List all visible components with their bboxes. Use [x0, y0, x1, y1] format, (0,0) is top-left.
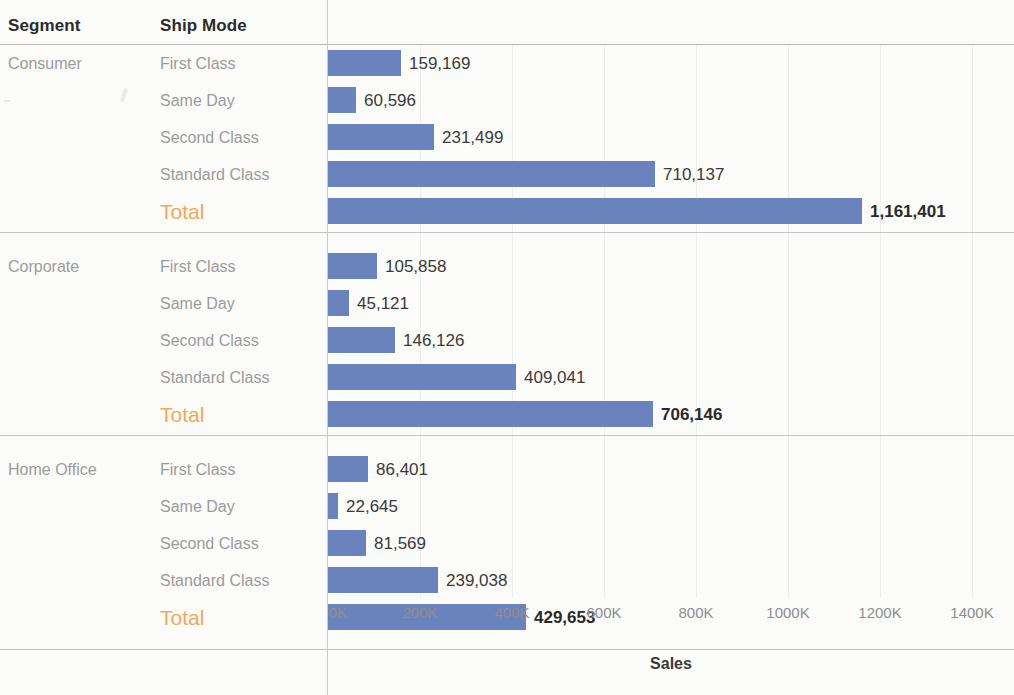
bar[interactable]: [328, 567, 438, 593]
bar[interactable]: [328, 161, 655, 187]
segment-divider: [0, 435, 1014, 436]
ship-mode-label[interactable]: Standard Class: [160, 562, 320, 599]
bar-value-label: 239,038: [446, 562, 507, 599]
scan-artifact: [4, 100, 11, 102]
column-header-segment: Segment: [8, 16, 148, 42]
chart-row[interactable]: Standard Class409,041: [0, 359, 1014, 396]
bar[interactable]: [328, 124, 434, 150]
segment-label[interactable]: Consumer: [8, 45, 148, 82]
segment-divider: [0, 649, 1014, 650]
ship-mode-label[interactable]: Same Day: [160, 285, 320, 322]
bar[interactable]: [328, 327, 395, 353]
bar[interactable]: [328, 253, 377, 279]
x-axis-tick-label: 200K: [402, 604, 437, 621]
bar-value-label: 81,569: [374, 525, 426, 562]
x-axis-ticks: 0K200K400K600K800K1000K1200K1400K: [328, 604, 1014, 628]
column-header-ship-mode: Ship Mode: [160, 16, 320, 42]
chart-row[interactable]: Total706,146: [0, 396, 1014, 433]
chart-row[interactable]: Home OfficeFirst Class86,401: [0, 451, 1014, 488]
x-axis-tick-label: 1200K: [858, 604, 901, 621]
ship-mode-label[interactable]: Standard Class: [160, 359, 320, 396]
total-row-label[interactable]: Total: [160, 193, 320, 230]
ship-mode-label[interactable]: First Class: [160, 451, 320, 488]
total-row-label[interactable]: Total: [160, 396, 320, 433]
chart-row[interactable]: Standard Class710,137: [0, 156, 1014, 193]
ship-mode-label[interactable]: Same Day: [160, 82, 320, 119]
bar-value-label: 409,041: [524, 359, 585, 396]
ship-mode-label[interactable]: Same Day: [160, 488, 320, 525]
bar-value-label: 105,858: [385, 248, 446, 285]
bar-value-label: 45,121: [357, 285, 409, 322]
segment-label[interactable]: Home Office: [8, 451, 148, 488]
ship-mode-label[interactable]: First Class: [160, 248, 320, 285]
bar[interactable]: [328, 530, 366, 556]
x-axis-tick-label: 1400K: [950, 604, 993, 621]
ship-mode-label[interactable]: Second Class: [160, 322, 320, 359]
bar[interactable]: [328, 198, 862, 224]
bar[interactable]: [328, 401, 653, 427]
chart-row[interactable]: Second Class81,569: [0, 525, 1014, 562]
column-header-segment-label: Segment: [8, 16, 81, 35]
x-axis-tick-label: 1000K: [766, 604, 809, 621]
bar-value-label: 146,126: [403, 322, 464, 359]
bar-value-label: 710,137: [663, 156, 724, 193]
chart-row[interactable]: Standard Class239,038: [0, 562, 1014, 599]
segment-divider: [0, 232, 1014, 233]
bar-value-label: 60,596: [364, 82, 416, 119]
x-axis-tick-label: 600K: [586, 604, 621, 621]
x-axis-tick-label: 0K: [329, 604, 347, 621]
bar-value-label: 1,161,401: [870, 193, 946, 230]
bar-value-label: 231,499: [442, 119, 503, 156]
chart-row[interactable]: Second Class231,499: [0, 119, 1014, 156]
ship-mode-label[interactable]: First Class: [160, 45, 320, 82]
bar[interactable]: [328, 493, 338, 519]
chart-row[interactable]: Same Day22,645: [0, 488, 1014, 525]
ship-mode-label[interactable]: Standard Class: [160, 156, 320, 193]
column-header-ship-mode-label: Ship Mode: [160, 16, 247, 35]
chart-row[interactable]: Total1,161,401: [0, 193, 1014, 230]
bar-value-label: 22,645: [346, 488, 398, 525]
bar[interactable]: [328, 290, 349, 316]
bar-value-label: 86,401: [376, 451, 428, 488]
bar[interactable]: [328, 87, 356, 113]
segment-label[interactable]: Corporate: [8, 248, 148, 285]
x-axis-tick-label: 800K: [678, 604, 713, 621]
chart-row[interactable]: ConsumerFirst Class159,169: [0, 45, 1014, 82]
chart-row[interactable]: CorporateFirst Class105,858: [0, 248, 1014, 285]
bar[interactable]: [328, 50, 401, 76]
x-axis-title: Sales: [328, 655, 1014, 673]
bar-value-label: 706,146: [661, 396, 722, 433]
total-row-label[interactable]: Total: [160, 599, 320, 636]
ship-mode-label[interactable]: Second Class: [160, 119, 320, 156]
x-axis-tick-label: 400K: [494, 604, 529, 621]
chart-row[interactable]: Second Class146,126: [0, 322, 1014, 359]
chart-row[interactable]: Same Day45,121: [0, 285, 1014, 322]
bar-value-label: 159,169: [409, 45, 470, 82]
chart-row[interactable]: Same Day60,596: [0, 82, 1014, 119]
ship-mode-label[interactable]: Second Class: [160, 525, 320, 562]
bar[interactable]: [328, 364, 516, 390]
chart-sheet: Segment Ship Mode ConsumerFirst Class159…: [0, 0, 1014, 695]
bar[interactable]: [328, 456, 368, 482]
